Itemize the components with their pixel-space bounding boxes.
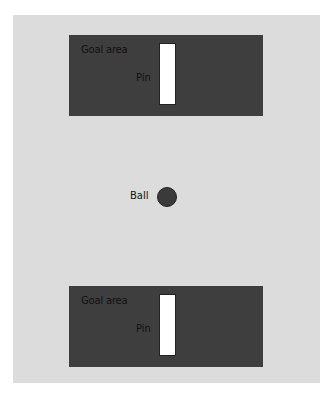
top-pin-label: Pin xyxy=(136,72,151,83)
top-goal-area: Goal area Pin xyxy=(69,35,263,116)
diagram-canvas: Goal area Pin Ball Goal area Pin xyxy=(0,0,332,395)
top-pin xyxy=(159,43,176,105)
bottom-goal-area-label: Goal area xyxy=(81,295,127,306)
bottom-pin xyxy=(159,294,176,356)
ball-label: Ball xyxy=(130,190,149,201)
ball xyxy=(157,187,177,207)
top-goal-area-label: Goal area xyxy=(81,44,127,55)
bottom-pin-label: Pin xyxy=(136,323,151,334)
bottom-goal-area: Goal area Pin xyxy=(69,286,263,367)
